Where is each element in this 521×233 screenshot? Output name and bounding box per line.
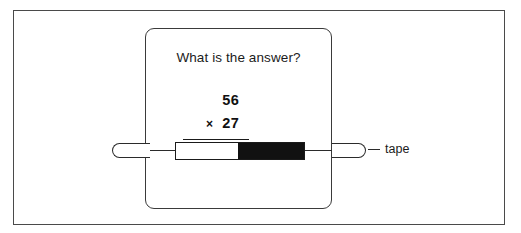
multiplication-operator-icon: ×	[206, 118, 213, 130]
multiplier-row: × 27	[176, 116, 252, 131]
multiplicand: 56	[176, 93, 252, 108]
tape-label: tape	[385, 142, 409, 156]
question-text: What is the answer?	[145, 50, 332, 65]
multiplier: 27	[222, 116, 239, 131]
tape-leader-line	[368, 149, 380, 150]
sum-horizontal-rule	[183, 139, 249, 140]
multiplication-sum: 56 × 27	[176, 93, 252, 130]
